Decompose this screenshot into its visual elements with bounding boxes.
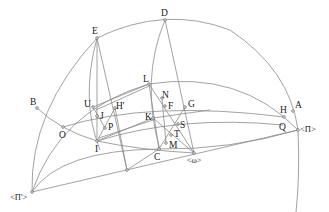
label-N: N [162,91,169,101]
arc-I-Q [97,122,283,141]
label-A: A [295,101,302,111]
label-Pi: <Π> [300,125,316,134]
label-P: P [108,123,113,133]
line-Hp-vertex [115,108,127,170]
label-G: G [188,100,195,110]
label-T: T [174,130,180,140]
label-F: F [168,102,173,112]
label-O: O [59,131,66,141]
arc-D-omega [151,20,165,150]
label-K: K [145,113,152,123]
label-Pi-prime: <Π'> [10,193,27,202]
label-J: J [100,112,104,122]
arc-E-lower [89,38,100,150]
label-L: L [143,75,149,85]
points [31,19,300,194]
label-B: B [30,98,36,108]
label-U: U [84,100,91,110]
label-I: I [95,145,98,155]
label-M: M [169,141,177,151]
label-H-prime: H' [116,102,125,112]
label-S: S [180,121,185,131]
label-D: D [161,9,168,19]
label-C: C [154,153,160,163]
label-H: H [280,106,287,116]
label-omega: <ω> [187,157,201,165]
label-Q: Q [279,123,286,133]
label-E: E [92,27,98,37]
